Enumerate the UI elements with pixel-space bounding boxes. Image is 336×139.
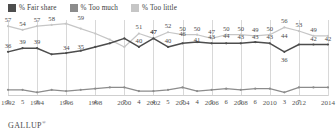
data-point[interactable] (211, 42, 213, 44)
point-value-label: 36 (5, 43, 12, 50)
legend-label: % Too little (142, 4, 177, 12)
point-value-label: 44 (223, 33, 230, 40)
data-point[interactable] (254, 41, 256, 43)
point-value-label: 47 (150, 29, 157, 36)
x-axis-tick-2004: 2004 (176, 99, 190, 107)
data-point[interactable] (21, 89, 23, 91)
x-axis-tick-2012: 2012 (292, 99, 306, 107)
data-point[interactable] (152, 90, 154, 92)
data-point[interactable] (51, 53, 53, 55)
x-axis-tick-2000: 2000 (117, 99, 131, 107)
legend-swatch-icon (8, 4, 16, 12)
data-point[interactable] (254, 88, 256, 90)
data-point[interactable] (181, 42, 183, 44)
point-value-label: 50 (267, 26, 274, 33)
data-point[interactable] (312, 43, 314, 45)
data-point[interactable] (94, 88, 96, 90)
x-axis-tick-1992: 1992 (1, 99, 15, 107)
data-point[interactable] (167, 31, 169, 33)
legend-swatch-icon (70, 4, 78, 12)
data-point[interactable] (269, 42, 271, 44)
legend-item-2[interactable]: % Too little (131, 4, 177, 12)
point-value-label: 41 (194, 37, 201, 44)
data-point[interactable] (80, 89, 82, 91)
data-point[interactable] (312, 86, 314, 88)
point-value-label: 40 (165, 38, 172, 45)
point-value-label: 50 (194, 26, 201, 33)
data-point[interactable] (138, 32, 140, 34)
data-point[interactable] (196, 90, 198, 92)
data-point[interactable] (240, 89, 242, 91)
data-point[interactable] (123, 86, 125, 88)
data-point[interactable] (167, 89, 169, 91)
data-point[interactable] (80, 27, 82, 29)
x-axis-tick-1998: 1998 (88, 99, 102, 107)
point-value-label: 46 (179, 31, 186, 38)
data-point[interactable] (65, 52, 67, 54)
data-point[interactable] (327, 86, 329, 88)
data-point[interactable] (109, 39, 111, 41)
data-point[interactable] (298, 86, 300, 88)
data-point[interactable] (21, 47, 23, 49)
data-point[interactable] (123, 46, 125, 48)
point-value-label: 43 (267, 34, 274, 41)
data-point[interactable] (152, 37, 154, 39)
registered-mark-icon: ® (42, 120, 46, 125)
data-point[interactable] (298, 30, 300, 32)
data-point[interactable] (65, 90, 67, 92)
point-value-label: 53 (296, 22, 303, 29)
data-point[interactable] (283, 26, 285, 28)
legend-label: % Too much (81, 4, 119, 12)
gallup-brand: GALLUP® (8, 120, 46, 130)
data-point[interactable] (21, 29, 23, 31)
data-point[interactable] (211, 89, 213, 91)
data-point[interactable] (298, 43, 300, 45)
data-point[interactable] (269, 88, 271, 90)
data-point[interactable] (65, 23, 67, 25)
point-value-label: 43 (237, 34, 244, 41)
data-point[interactable] (51, 89, 53, 91)
data-point[interactable] (51, 24, 53, 26)
data-point[interactable] (94, 32, 96, 34)
data-point[interactable] (7, 51, 9, 53)
data-point[interactable] (36, 91, 38, 93)
x-axis-tick-2010: 2010 (263, 99, 277, 107)
point-value-label: 42 (310, 36, 317, 43)
data-point[interactable] (181, 86, 183, 88)
data-point[interactable] (7, 89, 9, 91)
point-value-label: 49 (310, 27, 317, 34)
x-axis-line (8, 95, 328, 96)
data-point[interactable] (167, 46, 169, 48)
point-value-label: 43 (252, 34, 259, 41)
x-axis-tick-1994: 1994 (30, 99, 44, 107)
data-point[interactable] (138, 90, 140, 92)
legend-swatch-icon (131, 4, 139, 12)
point-value-label: 54 (19, 21, 26, 28)
data-point[interactable] (36, 47, 38, 49)
data-point[interactable] (94, 46, 96, 48)
legend-item-1[interactable]: % Too much (70, 4, 119, 12)
data-point[interactable] (283, 91, 285, 93)
x-axis-tick-2002: 2002 (146, 99, 160, 107)
x-axis-tick-2008: 2008 (234, 99, 248, 107)
data-point[interactable] (327, 43, 329, 45)
series-lines (8, 20, 328, 96)
point-value-label: 39 (34, 39, 41, 46)
data-point[interactable] (283, 51, 285, 53)
point-value-label: 40 (136, 38, 143, 45)
data-point[interactable] (123, 37, 125, 39)
data-point[interactable] (109, 86, 111, 88)
data-point[interactable] (225, 42, 227, 44)
data-point[interactable] (36, 25, 38, 27)
data-point[interactable] (240, 42, 242, 44)
legend-item-0[interactable]: % Fair share (8, 4, 57, 12)
data-point[interactable] (109, 42, 111, 44)
legend-label: % Fair share (19, 4, 57, 12)
data-point[interactable] (138, 46, 140, 48)
data-point[interactable] (7, 25, 9, 27)
data-point[interactable] (225, 88, 227, 90)
point-value-label: 42 (325, 36, 332, 43)
point-value-label: 57 (5, 17, 12, 24)
point-value-label: 44 (281, 33, 288, 40)
point-value-label: 35 (77, 44, 84, 51)
